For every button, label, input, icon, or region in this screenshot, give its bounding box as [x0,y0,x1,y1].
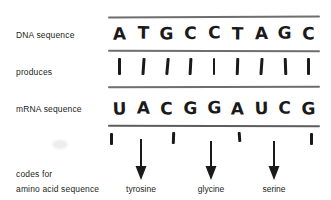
bond-mark [276,58,293,75]
bond-mark [111,58,128,75]
bond-mark [229,58,246,75]
dna-base: C [182,24,199,41]
label-dna-sequence: DNA sequence [16,30,75,40]
rule-above-mrna [108,86,320,88]
codon-tick [110,133,113,145]
codon-tick [238,132,241,142]
rule-below-dna [108,50,320,53]
label-codes-for: codes for [16,169,52,179]
dna-base: G [276,24,293,41]
diagram-canvas: DNA sequence A T G C C T A G C produces … [0,0,331,200]
bond-marks-strip [108,54,320,78]
dna-sequence-strip: A T G C C T A G C [108,19,320,47]
codon-tick [172,132,175,144]
mrna-base: U [111,100,128,117]
amino-acid-name: tyrosine [126,184,156,194]
dna-base: C [300,25,317,42]
down-arrow-icon [267,141,281,183]
amino-acid-name: glycine [198,184,224,194]
mrna-base: G [182,99,199,116]
amino-acid-name: serine [262,184,285,194]
bond-mark [253,58,270,75]
dna-base: G [158,25,175,42]
bond-mark [300,58,317,75]
mrna-sequence-strip: U A C G G A U C G [108,94,320,122]
down-arrow-icon [204,141,218,183]
dna-base: T [229,25,246,42]
mrna-base: C [158,100,175,117]
mrna-base: U [253,99,270,116]
scan-smudge-artifact [52,140,68,149]
rule-above-dna [108,16,320,19]
mrna-base: G [300,100,317,117]
label-mrna-sequence: mRNA sequence [16,104,82,114]
codon-tick [310,133,313,145]
mrna-base: G [205,99,222,116]
rule-below-mrna [108,125,320,128]
dna-base: A [111,25,128,42]
dna-base: C [205,24,222,41]
down-arrow-icon [134,139,148,181]
dna-base: T [134,24,151,41]
bond-mark [135,58,152,75]
dna-base: A [253,24,270,41]
mrna-base: A [229,100,246,117]
bond-mark [206,58,223,75]
mrna-base: A [134,99,151,116]
label-amino-acid-sequence: amino acid sequence [16,184,99,194]
label-produces: produces [16,67,52,77]
bond-mark [158,58,175,75]
mrna-base: C [276,99,293,116]
bond-mark [182,58,199,75]
